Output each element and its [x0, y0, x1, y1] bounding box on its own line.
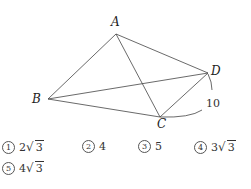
- point-label-d: D: [211, 64, 221, 78]
- choice-marker: 4: [194, 141, 207, 154]
- length-label: 10: [206, 97, 220, 110]
- choice-marker: 2: [82, 140, 95, 153]
- segment-bc: [48, 99, 160, 117]
- sqrt-icon: √: [218, 140, 226, 154]
- answer-choices: 12√3 24 35 43√3 54√3: [2, 140, 251, 182]
- choice-3[interactable]: 35: [138, 140, 162, 153]
- choice-marker: 1: [2, 141, 15, 154]
- choice-marker: 3: [138, 140, 151, 153]
- choice-4[interactable]: 43√3: [194, 140, 236, 154]
- sqrt-icon: √: [26, 161, 34, 175]
- choice-1[interactable]: 12√3: [2, 140, 44, 154]
- point-label-a: A: [111, 15, 120, 29]
- choice-marker: 5: [2, 162, 15, 175]
- point-label-c: C: [157, 117, 166, 131]
- choice-2[interactable]: 24: [82, 140, 106, 153]
- segment-ac: [116, 34, 160, 117]
- choice-5[interactable]: 54√3: [2, 161, 44, 175]
- segment-ad: [116, 34, 208, 73]
- sqrt-icon: √: [26, 140, 34, 154]
- point-label-b: B: [32, 92, 41, 106]
